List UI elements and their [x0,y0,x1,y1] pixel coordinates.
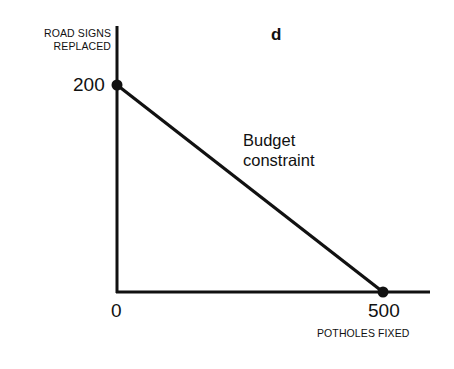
y-tick-200: 200 [73,74,105,96]
budget-constraint-annotation: Budget constraint [243,130,315,170]
y-axis-title-line-2: REPLACED [29,40,111,53]
annotation-line-1: Budget [243,130,315,150]
panel-label: d [271,25,281,45]
intercept-point-x [378,287,389,298]
x-tick-500: 500 [368,300,400,322]
intercept-point-y [112,80,123,91]
y-axis-title-line-1: ROAD SIGNS [29,27,111,40]
y-axis-title: ROAD SIGNS REPLACED [29,27,111,53]
budget-constraint-line [117,85,383,292]
annotation-line-2: constraint [243,150,315,170]
x-tick-0: 0 [111,300,122,322]
x-axis-title: POTHOLES FIXED [317,327,409,340]
